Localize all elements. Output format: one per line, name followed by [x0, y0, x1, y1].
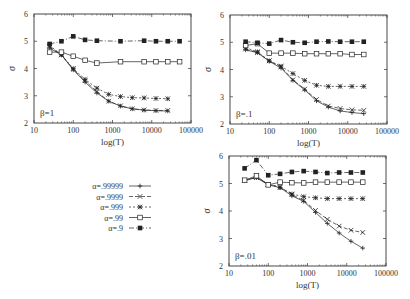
series-line [50, 36, 180, 44]
plot-frame [230, 15, 387, 124]
open-square-marker [350, 52, 355, 57]
open-square-marker [138, 215, 143, 220]
y-tick-label: 2 [24, 119, 28, 128]
open-square-marker [337, 180, 342, 185]
star-marker [106, 92, 111, 97]
series-line [245, 177, 363, 232]
x-tick-label: 100000 [374, 269, 398, 278]
filled-square-marker [142, 38, 147, 43]
filled-square-marker [302, 40, 307, 45]
y-tick-label: 6 [24, 10, 28, 19]
series-plus [47, 46, 170, 114]
open-square-marker [301, 181, 306, 186]
x-tick-label: 100000 [375, 127, 399, 136]
filled-square-marker [47, 42, 52, 47]
x-tick-label: 1000 [300, 269, 316, 278]
filled-square-marker [243, 39, 248, 44]
x-tick-label: 100 [263, 127, 275, 136]
open-square-marker [83, 58, 88, 63]
open-square-marker [279, 51, 284, 56]
star-marker [301, 194, 306, 199]
star-marker [255, 49, 260, 54]
y-tick-label: 6 [219, 152, 223, 161]
filled-square-marker [177, 39, 182, 44]
x-tick-label: 10000 [338, 127, 358, 136]
open-square-marker [314, 51, 319, 56]
y-tick-label: 4 [219, 207, 223, 216]
star-marker [350, 84, 355, 89]
beta-annotation: β=.1 [236, 109, 252, 119]
legend-entry: α=.99 [104, 214, 151, 223]
star-marker [302, 78, 307, 83]
y-tick-label: 2 [219, 262, 223, 271]
star-marker [314, 83, 319, 88]
filled-square-marker [255, 40, 260, 45]
open-square-marker [291, 51, 296, 56]
series-filled-square [243, 38, 366, 46]
filled-square-marker [165, 39, 170, 44]
filled-square-marker [138, 226, 143, 231]
x-tick-label: 100 [262, 269, 274, 278]
open-square-marker [165, 59, 170, 64]
star-marker [337, 196, 342, 201]
open-square-marker [254, 174, 259, 179]
star-marker [138, 205, 143, 210]
open-square-marker [95, 61, 100, 66]
filled-square-marker [290, 170, 295, 175]
open-square-marker [349, 180, 354, 185]
x-tick-label: 100 [67, 126, 79, 135]
star-marker [71, 66, 76, 71]
open-square-marker [142, 59, 147, 64]
plot-frame [34, 14, 191, 123]
x-tick-label: 10 [226, 127, 234, 136]
x-tick-label: 1000 [301, 127, 317, 136]
series-line [50, 45, 168, 98]
filled-square-marker [349, 170, 354, 175]
star-marker [130, 95, 135, 100]
open-square-marker [278, 180, 283, 185]
filled-square-marker [360, 170, 365, 175]
y-tick-label: 3 [220, 93, 224, 102]
open-square-marker [302, 51, 307, 56]
star-marker [290, 192, 295, 197]
open-square-marker [267, 51, 272, 56]
star-marker [95, 86, 100, 91]
y-tick-label: 4 [24, 65, 28, 74]
beta-annotation: β=.01 [235, 251, 256, 261]
star-marker [326, 84, 331, 89]
x-tick-label: 100000 [179, 126, 203, 135]
open-square-marker [326, 51, 331, 56]
star-marker [278, 185, 283, 190]
y-tick-label: 5 [219, 180, 223, 189]
star-marker [279, 64, 284, 69]
y-axis-label: σ [202, 66, 213, 72]
open-square-marker [59, 50, 64, 55]
open-square-marker [71, 54, 76, 59]
star-marker [338, 84, 343, 89]
filled-square-marker [83, 38, 88, 43]
x-tick-label: 10000 [337, 269, 357, 278]
legend-label: α=.9 [108, 224, 123, 233]
open-square-marker [177, 59, 182, 64]
y-tick-label: 2 [220, 120, 224, 129]
filled-square-marker [118, 39, 123, 44]
plus-marker [360, 246, 365, 251]
open-square-marker [361, 52, 366, 57]
filled-square-marker [242, 166, 247, 171]
x-tick-label: 10 [30, 126, 38, 135]
star-marker [118, 94, 123, 99]
filled-square-marker [313, 170, 318, 175]
filled-square-marker [325, 171, 330, 176]
open-square-marker [338, 51, 343, 56]
x-axis-label: log(T) [296, 280, 319, 290]
x-axis-label: log(T) [297, 138, 320, 148]
plot-panel-top-left: 1010010001000010000023456log(T)σβ=1 [6, 10, 203, 147]
legend-label: α=.9999 [96, 193, 123, 202]
y-tick-label: 3 [24, 92, 28, 101]
y-axis-label: σ [201, 207, 212, 213]
legend-label: α=.99999 [92, 182, 123, 191]
x-axis-label: log(T) [101, 137, 124, 147]
y-tick-label: 5 [220, 38, 224, 47]
filled-square-marker [350, 39, 355, 44]
filled-square-marker [314, 39, 319, 44]
